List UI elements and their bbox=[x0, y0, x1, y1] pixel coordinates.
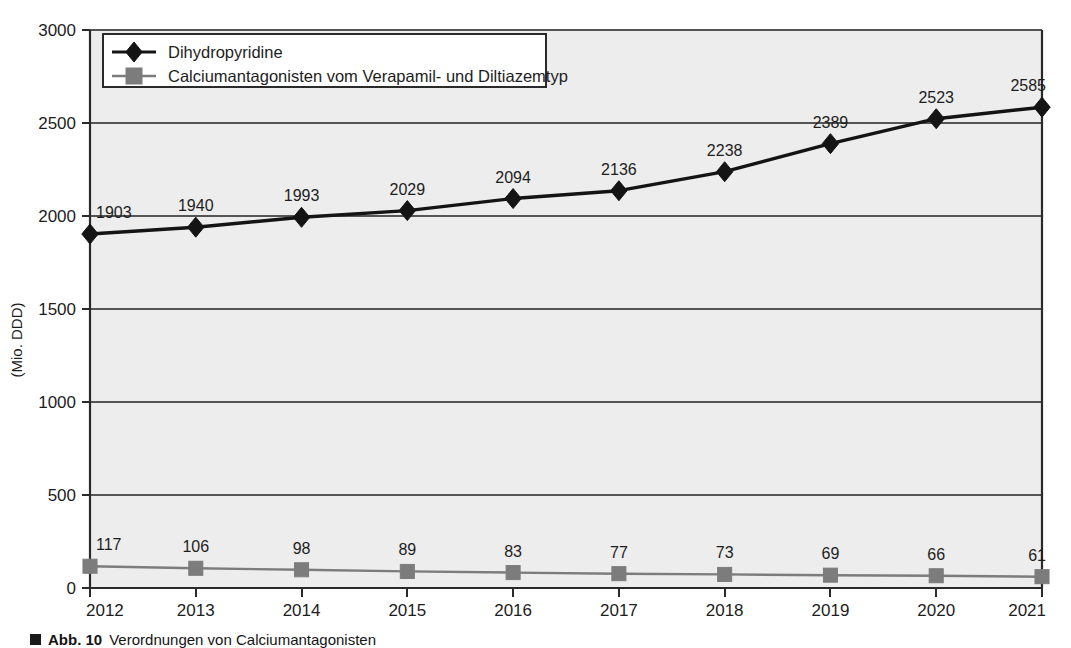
x-tick-label: 2017 bbox=[600, 601, 638, 620]
square-marker-icon bbox=[612, 567, 626, 581]
data-label: 1993 bbox=[284, 187, 320, 204]
square-marker-icon bbox=[126, 68, 142, 84]
square-marker-icon bbox=[718, 567, 732, 581]
data-label: 2523 bbox=[918, 89, 954, 106]
figure-caption: Abb. 10 Verordnungen von Calciumantagoni… bbox=[30, 631, 1050, 648]
data-label: 2389 bbox=[813, 114, 849, 131]
data-label: 66 bbox=[927, 546, 945, 563]
square-marker-icon bbox=[400, 564, 414, 578]
legend-label: Dihydropyridine bbox=[168, 43, 283, 61]
data-label: 2136 bbox=[601, 161, 637, 178]
x-tick-label: 2021 bbox=[1008, 601, 1046, 620]
y-tick-label: 2500 bbox=[38, 114, 76, 133]
caption-body: Verordnungen von Calciumantagonisten bbox=[109, 631, 376, 648]
data-label: 98 bbox=[293, 540, 311, 557]
data-label: 117 bbox=[96, 536, 122, 553]
y-axis-title: (Mio. DDD) bbox=[8, 303, 25, 378]
figure-container: 050010001500200025003000 201220132014201… bbox=[0, 0, 1071, 648]
caption-label: Abb. 10 bbox=[48, 631, 102, 648]
y-tick-label: 0 bbox=[67, 579, 76, 598]
x-tick-label: 2020 bbox=[917, 601, 955, 620]
square-marker-icon bbox=[506, 566, 520, 580]
legend-label: Calciumantagonisten vom Verapamil- und D… bbox=[168, 67, 568, 85]
data-label: 2585 bbox=[1010, 77, 1046, 94]
data-label: 1940 bbox=[178, 197, 214, 214]
y-tick-label: 2000 bbox=[38, 207, 76, 226]
data-label: 89 bbox=[398, 541, 416, 558]
square-bullet-icon bbox=[30, 634, 41, 645]
x-tick-label: 2019 bbox=[812, 601, 850, 620]
x-tick-label: 2014 bbox=[283, 601, 321, 620]
x-tick-label: 2012 bbox=[86, 601, 124, 620]
y-tick-label: 1000 bbox=[38, 393, 76, 412]
chart-legend: DihydropyridineCalciumantagonisten vom V… bbox=[103, 34, 568, 87]
x-tick-label: 2015 bbox=[388, 601, 426, 620]
data-label: 73 bbox=[716, 544, 734, 561]
x-tick-label: 2016 bbox=[494, 601, 532, 620]
x-tick-label: 2013 bbox=[177, 601, 215, 620]
data-label: 2029 bbox=[390, 181, 426, 198]
square-marker-icon bbox=[83, 559, 97, 573]
line-chart: 050010001500200025003000 201220132014201… bbox=[0, 0, 1071, 648]
data-label: 1903 bbox=[96, 204, 132, 221]
data-label: 77 bbox=[610, 544, 628, 561]
data-label: 69 bbox=[822, 545, 840, 562]
square-marker-icon bbox=[295, 563, 309, 577]
x-axis: 2012201320142015201620172018201920202021 bbox=[86, 588, 1046, 620]
data-label: 106 bbox=[182, 538, 209, 555]
square-marker-icon bbox=[1035, 570, 1049, 584]
data-label: 2238 bbox=[707, 142, 743, 159]
y-axis: 050010001500200025003000 bbox=[38, 21, 90, 598]
square-marker-icon bbox=[189, 561, 203, 575]
y-tick-label: 500 bbox=[48, 486, 76, 505]
data-label: 61 bbox=[1028, 547, 1046, 564]
square-marker-icon bbox=[929, 569, 943, 583]
data-label: 83 bbox=[504, 543, 522, 560]
y-tick-label: 1500 bbox=[38, 300, 76, 319]
data-label: 2094 bbox=[495, 169, 531, 186]
x-tick-label: 2018 bbox=[706, 601, 744, 620]
y-tick-label: 3000 bbox=[38, 21, 76, 40]
square-marker-icon bbox=[823, 568, 837, 582]
